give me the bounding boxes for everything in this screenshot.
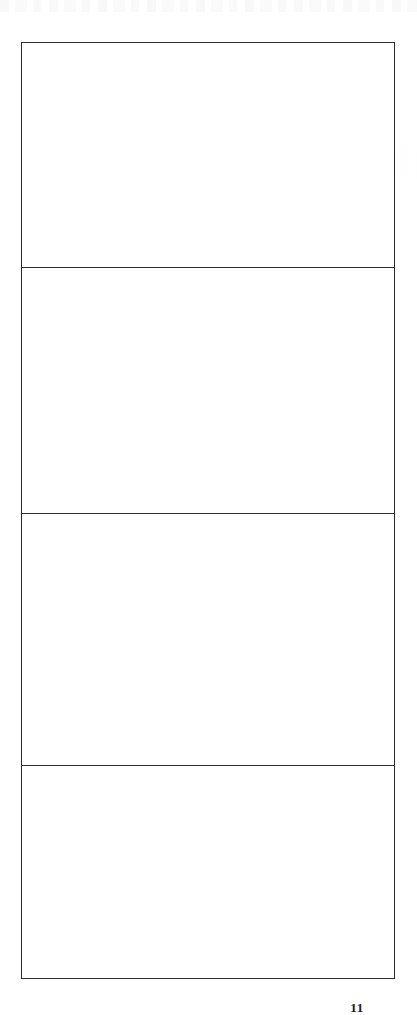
scanned-page: 11 xyxy=(0,0,417,1015)
scan-ghost-text-strip xyxy=(0,0,417,12)
table-cell[interactable] xyxy=(22,268,395,514)
table-cell-text xyxy=(22,43,394,267)
page-number: 11 xyxy=(344,1003,370,1015)
table-cell-text xyxy=(22,766,394,978)
table-cell[interactable] xyxy=(22,43,395,268)
blank-table xyxy=(21,42,395,979)
table-cell-text xyxy=(22,514,394,765)
table-row xyxy=(22,766,395,979)
table-row xyxy=(22,514,395,766)
table-cell[interactable] xyxy=(22,766,395,979)
table-cell-text xyxy=(22,268,394,513)
table-body xyxy=(22,43,395,979)
table-row xyxy=(22,43,395,268)
page-number-text: 11 xyxy=(344,1003,370,1014)
table-cell[interactable] xyxy=(22,514,395,766)
table-row xyxy=(22,268,395,514)
